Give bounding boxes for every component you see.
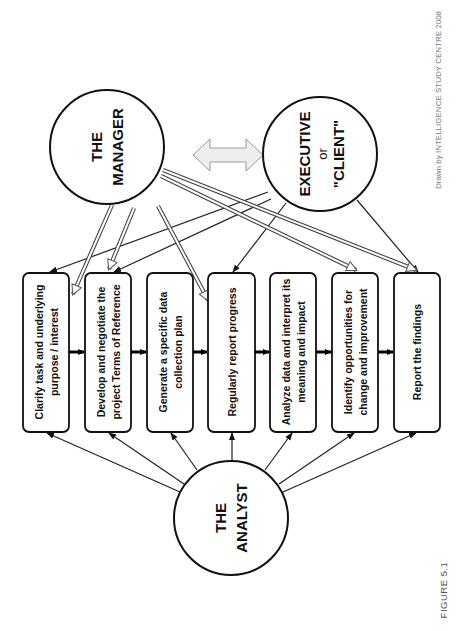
executive-label-line3: "CLIENT" — [330, 120, 347, 188]
manager-label-line1: THE — [88, 132, 105, 162]
step-2-line2: project Terms of Reference — [110, 284, 122, 419]
step-2-line1: Develop and negotiate the — [95, 286, 107, 417]
analyst-to-step-5-arrow — [265, 433, 292, 470]
executive-label-line1: EXECUTIVE — [296, 111, 313, 196]
two-way-arrow — [193, 139, 263, 171]
step-1-line1: Clarify task and underlying — [33, 285, 45, 420]
analyst-to-step-3-arrow — [171, 433, 197, 470]
step-6-line2: change and improvement — [357, 288, 369, 416]
figure-label: FIGURE 5.1 — [438, 562, 449, 619]
figure-label-group: FIGURE 5.1 — [438, 562, 449, 619]
step-7: Report the findings — [394, 273, 440, 432]
executive-to-step-1-arrow — [50, 192, 268, 272]
step-3-line2: collection plan — [172, 315, 184, 389]
step-1-line2: purpose / interest — [48, 307, 60, 396]
step-7-line1: Report the findings — [411, 304, 423, 400]
executive-node: EXECUTIVE or "CLIENT" — [263, 97, 377, 211]
credit-text-group: Drawn by INTELLIGENCE STUDY CENTRE 2008 — [434, 10, 443, 189]
manager-node: THE MANAGER — [50, 90, 164, 204]
step-5-line2: meaning and impact — [295, 301, 307, 403]
analyst-to-step-2-arrow — [109, 433, 184, 484]
credit-text: Drawn by INTELLIGENCE STUDY CENTRE 2008 — [434, 10, 443, 189]
step-6: Identify opportunities for change and im… — [332, 273, 378, 432]
step-5-line1: Analyze data and interpret its — [280, 279, 292, 426]
analyst-to-step-1-arrow — [47, 433, 180, 492]
manager-label-line2: MANAGER — [109, 108, 126, 186]
step-1: Clarify task and underlying purpose / in… — [23, 273, 69, 432]
step-4: Regularly report progress — [208, 273, 255, 432]
executive-to-step-7-arrow — [357, 200, 418, 272]
analyst-label-line1: THE — [212, 503, 229, 533]
step-4-line1: Regularly report progress — [226, 287, 238, 416]
step-5: Analyze data and interpret its meaning a… — [270, 273, 316, 432]
step-3-line1: Generate a specific data — [157, 291, 169, 412]
executive-label-line2: or — [315, 148, 330, 160]
step-2: Develop and negotiate the project Terms … — [85, 273, 131, 432]
step-boxes: Clarify task and underlying purpose / in… — [23, 273, 440, 432]
process-diagram: THE MANAGER EXECUTIVE or "CLIENT" THE AN… — [0, 0, 469, 631]
analyst-node: THE ANALYST — [174, 461, 288, 575]
analyst-label-line2: ANALYST — [233, 483, 250, 552]
executive-to-step-2-arrow — [114, 199, 271, 272]
step-6-line1: Identify opportunities for — [342, 290, 354, 414]
manager-to-step-2-arrow — [109, 208, 134, 269]
analyst-to-step-7-arrow — [283, 433, 416, 492]
analyst-to-step-6-arrow — [279, 433, 354, 484]
step-3: Generate a specific data collection plan — [147, 273, 193, 432]
